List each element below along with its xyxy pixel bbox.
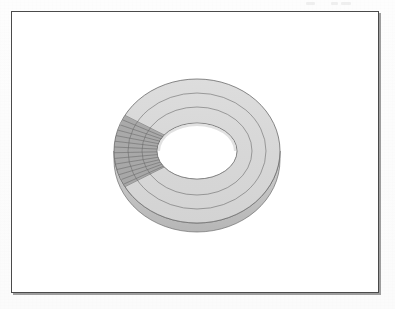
smudge-right-artifact bbox=[341, 2, 351, 5]
smudge-mid-artifact bbox=[331, 2, 338, 5]
donut-chart-plot-area bbox=[12, 12, 378, 292]
donut-chart-svg bbox=[12, 12, 378, 292]
smudge-left-artifact bbox=[306, 2, 315, 5]
figure-frame bbox=[11, 11, 379, 293]
